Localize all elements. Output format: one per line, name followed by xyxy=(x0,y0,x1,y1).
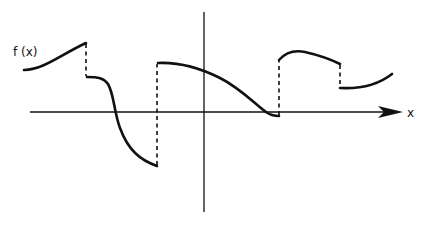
x-axis-label: x xyxy=(407,106,414,120)
function-diagram: f (x) x xyxy=(0,0,423,227)
curve-piece-3 xyxy=(158,63,279,116)
y-axis-label: f (x) xyxy=(13,45,38,59)
curve-piece-2 xyxy=(87,77,157,166)
curve-piece-4 xyxy=(279,51,340,64)
curve-piece-5 xyxy=(340,74,392,88)
